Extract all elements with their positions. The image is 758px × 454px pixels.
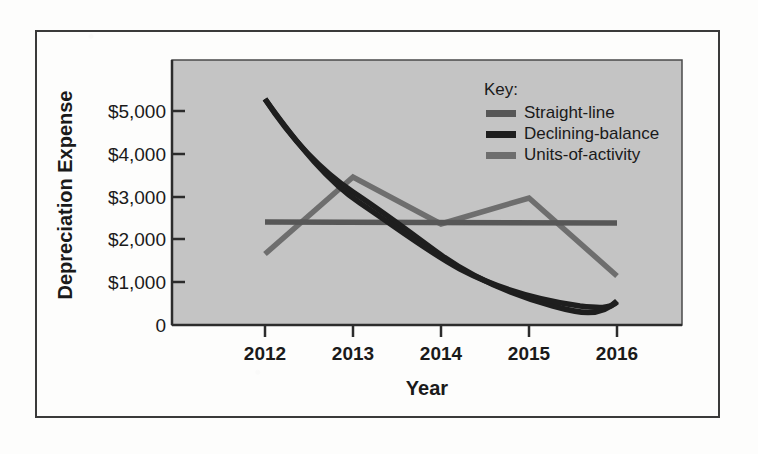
page-canvas: $5,000 $4,000 $3,000 $2,000 $1,000 0 201… [0, 0, 758, 454]
y-tick-label-1000: $1,000 [108, 272, 166, 293]
legend-swatch-straight-line [486, 110, 516, 117]
y-tick-label-5000: $5,000 [108, 101, 166, 122]
legend-swatch-units-of-activity [486, 152, 516, 159]
x-tick-label-2016: 2016 [596, 343, 638, 364]
x-tick-label-2012: 2012 [244, 343, 286, 364]
x-tick-label-2015: 2015 [508, 343, 551, 364]
y-tick-label-4000: $4,000 [108, 144, 166, 165]
y-tick-label-0: 0 [155, 315, 166, 336]
legend-swatch-declining-balance [486, 131, 516, 138]
legend-label-declining-balance: Declining-balance [524, 124, 659, 143]
depreciation-expense-line-chart: $5,000 $4,000 $3,000 $2,000 $1,000 0 201… [0, 0, 758, 454]
y-tick-label-2000: $2,000 [108, 229, 166, 250]
series-line-straight-line [265, 222, 617, 223]
x-tick-label-2014: 2014 [420, 343, 463, 364]
plot-area-background [172, 60, 682, 325]
x-axis-title: Year [406, 377, 448, 399]
x-axis-ticks [265, 325, 617, 337]
legend-label-straight-line: Straight-line [524, 103, 615, 122]
legend-title: Key: [484, 80, 518, 99]
y-tick-label-3000: $3,000 [108, 187, 166, 208]
legend-label-units-of-activity: Units-of-activity [524, 145, 641, 164]
y-axis-title: Depreciation Expense [54, 91, 76, 300]
x-tick-label-2013: 2013 [332, 343, 374, 364]
